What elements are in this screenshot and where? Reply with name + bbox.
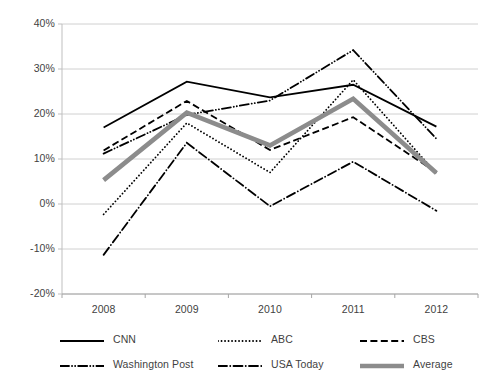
y-axis-tick-label: 10% bbox=[6, 152, 55, 164]
legend-label: Washington Post bbox=[113, 358, 194, 370]
legend-item-cbs[interactable]: CBS bbox=[360, 326, 460, 351]
legend-row: CNNABCCBS bbox=[60, 326, 460, 351]
legend-item-abc[interactable]: ABC bbox=[218, 326, 360, 351]
line-chart: 40%30%20%10%0%-10%-20% 20082009201020112… bbox=[0, 0, 493, 382]
legend-label: Average bbox=[413, 358, 453, 370]
legend-item-usa-today[interactable]: USA Today bbox=[218, 351, 360, 376]
y-axis-tick-label: 20% bbox=[6, 107, 55, 119]
legend-label: CBS bbox=[413, 333, 435, 345]
chart-legend: CNNABCCBSWashington PostUSA TodayAverage bbox=[60, 326, 460, 376]
legend-label: USA Today bbox=[271, 358, 324, 370]
dash-dot-dot-black-line-swatch bbox=[60, 358, 104, 370]
x-axis-tick-marks bbox=[62, 294, 478, 298]
y-axis-tick-label: 0% bbox=[6, 197, 55, 209]
legend-item-average[interactable]: Average bbox=[360, 351, 460, 376]
y-axis-tick-label: -20% bbox=[6, 287, 55, 299]
y-axis-tick-label: -10% bbox=[6, 242, 55, 254]
x-axis-tick-label: 2012 bbox=[406, 303, 466, 315]
x-axis-tick-label: 2010 bbox=[240, 303, 300, 315]
x-axis-tick-label: 2008 bbox=[74, 303, 134, 315]
data-series-group bbox=[104, 50, 437, 255]
legend-item-washington-post[interactable]: Washington Post bbox=[60, 351, 218, 376]
y-axis-tick-marks bbox=[58, 24, 62, 294]
thick-gray-line-swatch bbox=[360, 358, 404, 370]
dash-dot-black-line-swatch bbox=[218, 358, 262, 370]
legend-item-cnn[interactable]: CNN bbox=[60, 326, 218, 351]
dashed-black-line-swatch bbox=[360, 333, 404, 345]
legend-label: ABC bbox=[271, 333, 293, 345]
plot-canvas bbox=[0, 0, 493, 382]
legend-label: CNN bbox=[113, 333, 136, 345]
y-axis-tick-label: 30% bbox=[6, 62, 55, 74]
dotted-black-line-swatch bbox=[218, 333, 262, 345]
legend-row: Washington PostUSA TodayAverage bbox=[60, 351, 460, 376]
solid-black-line-swatch bbox=[60, 333, 104, 345]
x-axis-tick-label: 2009 bbox=[157, 303, 217, 315]
y-axis-tick-label: 40% bbox=[6, 17, 55, 29]
x-axis-tick-label: 2011 bbox=[323, 303, 383, 315]
